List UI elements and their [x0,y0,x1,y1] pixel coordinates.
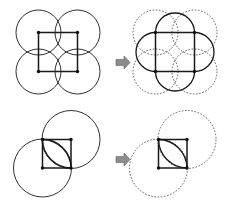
square-vertex-dot-2 [41,166,44,169]
figure-background [0,0,226,202]
square-vertex-dot-3 [76,70,79,73]
square-vertex-dot-1 [185,138,188,141]
square-vertex-dot-0 [157,138,160,141]
square-vertex-dot-2 [154,70,157,73]
square-vertex-dot-1 [76,31,79,34]
square-vertex-dot-0 [154,31,157,34]
square-vertex-dot-1 [193,31,196,34]
square-vertex-dot-0 [37,31,40,34]
square-vertex-dot-0 [41,138,44,141]
figure-canvas [0,0,226,202]
square-vertex-dot-2 [157,166,160,169]
square-vertex-dot-3 [185,166,188,169]
square-vertex-dot-1 [69,138,72,141]
square-vertex-dot-3 [69,166,72,169]
square-vertex-dot-2 [37,70,40,73]
square-vertex-dot-3 [193,70,196,73]
geometric-construction-figure [0,0,226,202]
